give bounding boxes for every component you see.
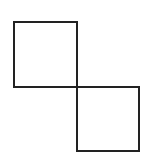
square-bottom-right (77, 87, 139, 151)
square-top-left (14, 22, 77, 87)
diagram-svg (0, 0, 152, 156)
diagram-canvas (0, 0, 152, 156)
